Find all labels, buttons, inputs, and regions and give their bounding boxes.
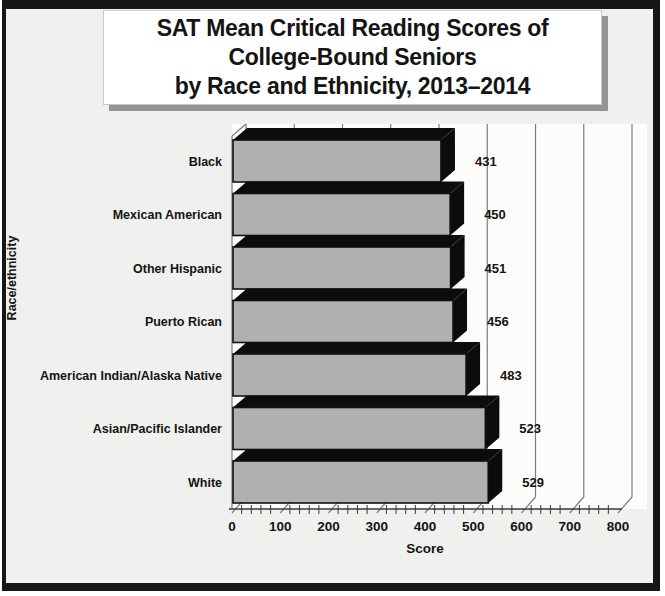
bar-row: Asian/Pacific Islander523 [93, 396, 541, 450]
bar-top-face [233, 128, 455, 140]
x-tick-label: 300 [365, 519, 388, 534]
bar-front-face [233, 354, 466, 396]
bar-top-face [233, 342, 480, 354]
value-label: 529 [522, 475, 544, 490]
category-label: Other Hispanic [133, 262, 222, 276]
value-label: 450 [484, 207, 506, 222]
bar-row: Other Hispanic451 [133, 235, 506, 289]
x-tick-label: 0 [228, 519, 236, 534]
category-label: Puerto Rican [145, 315, 222, 329]
value-label: 431 [475, 154, 497, 169]
x-tick-label: 400 [414, 519, 437, 534]
bar-top-face [233, 289, 467, 301]
bar-row: American Indian/Alaska Native483 [40, 342, 522, 396]
bar-front-face [233, 408, 485, 450]
bar-row: Mexican American450 [113, 182, 506, 236]
x-tick-label: 200 [317, 519, 340, 534]
category-label: Black [189, 155, 222, 169]
bar-top-face [233, 235, 465, 247]
value-label: 456 [487, 314, 509, 329]
bar-front-face [233, 140, 441, 182]
value-label: 451 [485, 261, 507, 276]
bar-front-face [233, 301, 453, 343]
category-label: Asian/Pacific Islander [93, 422, 222, 436]
value-label: 483 [500, 368, 522, 383]
chart-title-line-3: by Race and Ethnicity, 2013–2014 [104, 72, 601, 101]
chart-title-box: SAT Mean Critical Reading Scores of Coll… [103, 10, 602, 105]
x-tick-label: 700 [558, 519, 581, 534]
bar-front-face [233, 247, 451, 289]
category-label: Mexican American [113, 208, 222, 222]
y-axis-title: Race/ethnicity [5, 208, 21, 348]
chart-title-line-1: SAT Mean Critical Reading Scores of [104, 14, 601, 43]
bar-top-face [233, 449, 502, 461]
bar-front-face [233, 461, 488, 503]
x-tick-label: 100 [269, 519, 292, 534]
bar-row: Puerto Rican456 [145, 289, 509, 343]
x-tick-label: 500 [462, 519, 485, 534]
bar-top-face [233, 396, 499, 408]
x-tick-label: 800 [607, 519, 630, 534]
x-tick-label: 600 [510, 519, 533, 534]
value-label: 523 [519, 421, 541, 436]
bar-front-face [233, 194, 450, 236]
bar-row: White529 [188, 449, 544, 503]
category-label: White [188, 476, 222, 490]
bar-top-face [233, 182, 464, 194]
chart-title-line-2: College-Bound Seniors [104, 43, 601, 72]
page: 0100200300400500600700800Black431Mexican… [0, 0, 665, 596]
category-label: American Indian/Alaska Native [40, 369, 222, 383]
x-axis-title: Score [325, 541, 525, 556]
x-axis: 0100200300400500600700800 [228, 505, 629, 534]
